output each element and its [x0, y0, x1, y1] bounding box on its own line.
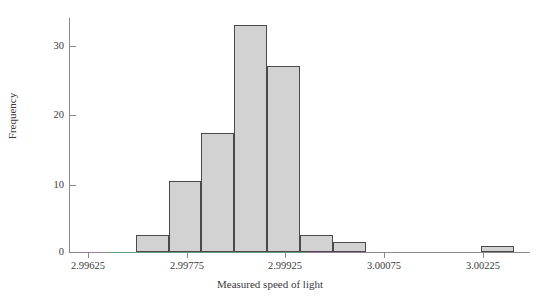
histogram-bar — [267, 66, 300, 252]
x-tick-label-4: 3.00225 — [443, 260, 523, 272]
x-tick-label-0: 2.99625 — [48, 260, 128, 272]
y-tick-label-10: 10 — [34, 180, 64, 191]
y-tick-10: 10 — [0, 180, 64, 191]
histogram-bar — [333, 242, 366, 252]
baseline-tint-violet — [306, 252, 372, 253]
x-tick-label-3: 3.00075 — [344, 260, 424, 272]
y-tick-label-30: 30 — [34, 41, 64, 52]
y-tick-mark-0 — [70, 252, 76, 253]
histogram-bar — [169, 181, 202, 252]
x-tick-label-2: 2.99925 — [245, 260, 325, 272]
histogram-figure: 0 10 20 30 2.99625 2.99775 2.99925 3.000… — [0, 0, 540, 307]
baseline-tint-green — [106, 252, 306, 253]
plot-area — [70, 18, 530, 252]
histogram-bar — [136, 235, 169, 252]
histogram-bar — [201, 133, 234, 252]
y-tick-0: 0 — [0, 247, 64, 258]
y-tick-30: 30 — [0, 41, 64, 52]
x-tick-mark-1 — [187, 253, 188, 258]
histogram-bar — [481, 246, 514, 252]
x-tick-mark-4 — [483, 253, 484, 258]
x-tick-mark-0 — [88, 253, 89, 258]
x-tick-label-1: 2.99775 — [147, 260, 227, 272]
y-tick-label-20: 20 — [34, 110, 64, 121]
histogram-bar — [300, 235, 333, 252]
x-tick-mark-3 — [384, 253, 385, 258]
y-tick-label-0: 0 — [34, 247, 64, 258]
x-tick-mark-2 — [285, 253, 286, 258]
y-axis-title: Frequency — [6, 66, 18, 166]
x-axis-title: Measured speed of light — [0, 278, 540, 290]
histogram-bar — [234, 25, 267, 252]
